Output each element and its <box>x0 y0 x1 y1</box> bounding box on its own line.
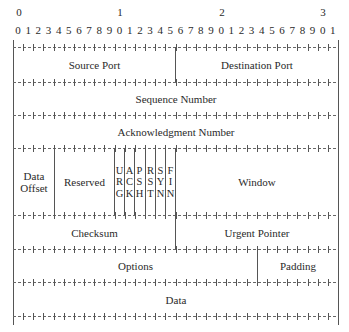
field-label: Window <box>238 176 275 188</box>
bit-number: 2 <box>135 24 145 36</box>
bit-number: 7 <box>186 24 196 36</box>
flag-letter: P <box>137 165 143 177</box>
field-padding: Padding <box>258 250 338 282</box>
flag-psh: P S H <box>134 149 145 215</box>
field-checksum: Checksum <box>14 216 175 249</box>
bit-number: 1 <box>328 24 338 36</box>
field-label: Data <box>166 294 187 306</box>
bit-number: 6 <box>74 24 84 36</box>
bit-number: 6 <box>176 24 186 36</box>
tens-label: 0 <box>13 6 25 18</box>
tens-label: 2 <box>216 6 228 18</box>
bit-number: 9 <box>206 24 216 36</box>
bit-number: 3 <box>43 24 53 36</box>
flag-letter: S <box>158 165 164 177</box>
field-label: Source Port <box>69 59 121 71</box>
bit-number: 4 <box>155 24 165 36</box>
flag-letter: C <box>126 176 133 188</box>
bit-number: 0 <box>216 24 226 36</box>
tens-label: 1 <box>114 6 126 18</box>
bit-number: 6 <box>277 24 287 36</box>
flag-letter: G <box>116 188 124 200</box>
flag-letter: K <box>126 188 134 200</box>
right-border <box>338 40 339 325</box>
flag-letter: R <box>116 176 123 188</box>
field-label: Destination Port <box>221 59 293 71</box>
field-label: Padding <box>280 260 316 272</box>
bit-number: 9 <box>308 24 318 36</box>
field-label: Data <box>24 170 45 182</box>
bit-number: 3 <box>247 24 257 36</box>
flag-letter: S <box>148 176 154 188</box>
bit-number: 4 <box>257 24 267 36</box>
bit-number: 0 <box>13 24 23 36</box>
bit-number: 9 <box>104 24 114 36</box>
bit-number: 0 <box>115 24 125 36</box>
flag-letter: U <box>116 165 124 177</box>
field-destination-port: Destination Port <box>176 48 338 82</box>
flag-letter: F <box>168 165 174 177</box>
field-label: Urgent Pointer <box>225 227 290 239</box>
bit-number: 8 <box>94 24 104 36</box>
bit-number: 5 <box>267 24 277 36</box>
field-label: Sequence Number <box>136 93 217 105</box>
flag-letter: Y <box>157 176 165 188</box>
field-reserved: Reserved <box>55 149 114 215</box>
field-data-offset: Data Offset <box>14 149 54 215</box>
bit-number: 5 <box>165 24 175 36</box>
flag-letter: H <box>136 188 144 200</box>
field-label: Reserved <box>64 176 105 188</box>
flag-letter: T <box>147 188 153 200</box>
field-options: Options <box>14 250 257 282</box>
flag-letter: I <box>169 176 173 188</box>
field-sequence-number: Sequence Number <box>14 83 338 115</box>
tens-label: 3 <box>317 6 329 18</box>
bit-number: 1 <box>226 24 236 36</box>
bit-number: 1 <box>23 24 33 36</box>
field-urgent-pointer: Urgent Pointer <box>176 216 338 249</box>
field-source-port: Source Port <box>14 48 175 82</box>
bit-number: 8 <box>196 24 206 36</box>
field-acknowledgment-number: Acknowledgment Number <box>14 116 338 148</box>
flag-fin: F I N <box>165 149 176 215</box>
field-label: Offset <box>20 182 47 194</box>
bit-number: 4 <box>54 24 64 36</box>
bit-number: 0 <box>318 24 328 36</box>
flag-letter: A <box>126 165 134 177</box>
bit-number: 7 <box>84 24 94 36</box>
flag-letter: N <box>167 188 175 200</box>
bit-number: 8 <box>297 24 307 36</box>
field-label: Options <box>118 260 153 272</box>
bit-number: 7 <box>287 24 297 36</box>
bit-number: 3 <box>145 24 155 36</box>
flag-letter: N <box>157 188 165 200</box>
field-label: Checksum <box>71 227 117 239</box>
field-label: Acknowledgment Number <box>118 126 235 138</box>
field-window: Window <box>176 149 338 215</box>
bit-number: 2 <box>33 24 43 36</box>
flag-letter: R <box>147 165 154 177</box>
bit-number: 2 <box>236 24 246 36</box>
bit-number: 1 <box>125 24 135 36</box>
bit-number: 5 <box>64 24 74 36</box>
flag-letter: S <box>137 176 143 188</box>
field-data: Data <box>14 283 338 316</box>
